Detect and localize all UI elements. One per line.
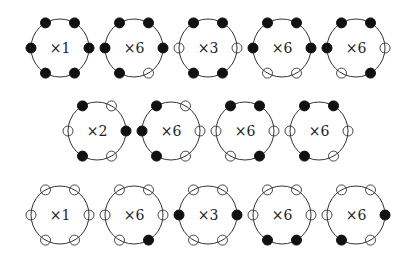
ring-configuration: ×6 bbox=[131, 91, 211, 171]
ring-configuration: ×2 bbox=[57, 91, 137, 171]
ring-configuration: ×1 bbox=[20, 8, 100, 88]
multiplicity-label: ×1 bbox=[20, 175, 100, 255]
multiplicity-label: ×3 bbox=[168, 8, 248, 88]
multiplicity-label: ×1 bbox=[20, 8, 100, 88]
multiplicity-label: ×6 bbox=[94, 175, 174, 255]
ring-configuration: ×6 bbox=[94, 8, 174, 88]
ring-configuration: ×6 bbox=[205, 91, 285, 171]
multiplicity-label: ×6 bbox=[242, 8, 322, 88]
ring-configuration: ×6 bbox=[94, 175, 174, 255]
multiplicity-label: ×3 bbox=[168, 175, 248, 255]
ring-configuration: ×3 bbox=[168, 8, 248, 88]
ring-configuration: ×1 bbox=[20, 175, 100, 255]
diagram-canvas: ×1×6×3×6×6×2×6×6×6×1×6×3×6×6 bbox=[0, 0, 411, 267]
multiplicity-label: ×6 bbox=[316, 175, 396, 255]
ring-configuration: ×6 bbox=[316, 175, 396, 255]
multiplicity-label: ×6 bbox=[205, 91, 285, 171]
ring-configuration: ×6 bbox=[316, 8, 396, 88]
multiplicity-label: ×6 bbox=[316, 8, 396, 88]
multiplicity-label: ×6 bbox=[94, 8, 174, 88]
multiplicity-label: ×2 bbox=[57, 91, 137, 171]
ring-configuration: ×3 bbox=[168, 175, 248, 255]
multiplicity-label: ×6 bbox=[131, 91, 211, 171]
multiplicity-label: ×6 bbox=[279, 91, 359, 171]
ring-configuration: ×6 bbox=[279, 91, 359, 171]
multiplicity-label: ×6 bbox=[242, 175, 322, 255]
ring-configuration: ×6 bbox=[242, 8, 322, 88]
ring-configuration: ×6 bbox=[242, 175, 322, 255]
